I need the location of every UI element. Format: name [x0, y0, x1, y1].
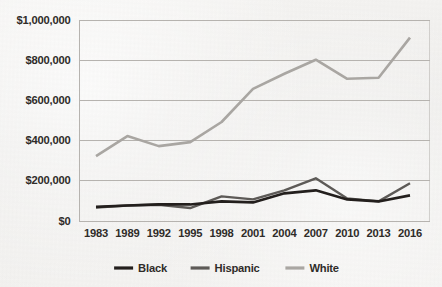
line-chart: $0$200,000$400,000$600,000$800,000$1,000… — [0, 0, 442, 287]
x-tick-label-2013: 2013 — [367, 227, 391, 239]
legend-label-white: White — [309, 262, 338, 274]
y-tick-label: $200,000 — [25, 174, 70, 186]
legend-label-hispanic: Hispanic — [215, 262, 260, 274]
y-tick-label: $1,000,000 — [17, 14, 71, 26]
x-tick-label-1983: 1983 — [84, 227, 108, 239]
y-tick-label: $800,000 — [25, 54, 70, 66]
plot-frame — [79, 20, 429, 221]
x-tick-label-1989: 1989 — [115, 227, 139, 239]
x-tick-label-1995: 1995 — [178, 227, 202, 239]
chart-container: $0$200,000$400,000$600,000$800,000$1,000… — [0, 0, 442, 287]
x-tick-label-2007: 2007 — [304, 227, 328, 239]
series-line-white — [96, 38, 410, 157]
x-axis-tick-labels: 1983198919921995199820012004200720102013… — [84, 227, 422, 239]
series-lines-group — [96, 38, 410, 208]
chart-legend: BlackHispanicWhite — [114, 262, 339, 274]
y-tick-label: $0 — [58, 215, 70, 227]
x-tick-label-1998: 1998 — [210, 227, 234, 239]
x-tick-label-2001: 2001 — [241, 227, 265, 239]
y-axis-tick-labels: $0$200,000$400,000$600,000$800,000$1,000… — [17, 14, 71, 227]
x-tick-label-2010: 2010 — [335, 227, 359, 239]
y-tick-label: $400,000 — [25, 134, 70, 146]
y-tick-label: $600,000 — [25, 94, 70, 106]
x-tick-label-2004: 2004 — [272, 227, 297, 239]
legend-label-black: Black — [138, 262, 168, 274]
x-tick-label-1992: 1992 — [147, 227, 171, 239]
x-tick-label-2016: 2016 — [398, 227, 422, 239]
gridlines-group — [79, 21, 430, 222]
